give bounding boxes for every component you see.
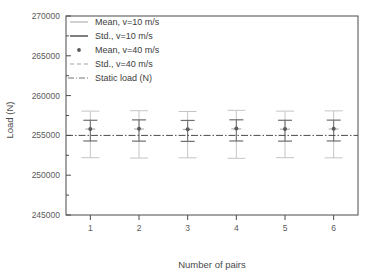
x-tick-label: 2 [137,223,142,233]
legend-label-mean-v10: Mean, v=10 m/s [95,17,160,27]
legend-label-static-load: Static load (N) [95,73,152,83]
legend-swatch-mean-v40-icon [77,48,81,52]
x-tick-label: 4 [234,223,239,233]
legend-label-std-v40: Std., v=40 m/s [95,59,153,69]
y-tick-label: 255000 [32,130,61,140]
y-tick-label: 250000 [32,170,61,180]
load-vs-pairs-chart: 245000250000255000260000265000270000 123… [0,0,370,277]
legend-label-mean-v40: Mean, v=40 m/s [95,45,160,55]
y-tick-label: 260000 [32,91,61,101]
chart-figure: 245000250000255000260000265000270000 123… [0,0,370,277]
x-axis-title: Number of pairs [178,259,246,270]
x-tick-label: 3 [185,223,190,233]
y-tick-label: 245000 [32,210,61,220]
legend-label-std-v10: Std., v=10 m/s [95,31,153,41]
x-tick-label: 6 [331,223,336,233]
x-tick-label: 5 [283,223,288,233]
x-tick-label: 1 [88,223,93,233]
y-tick-label: 270000 [32,11,61,21]
y-axis-title: Load (N) [4,102,15,139]
y-tick-label: 265000 [32,51,61,61]
